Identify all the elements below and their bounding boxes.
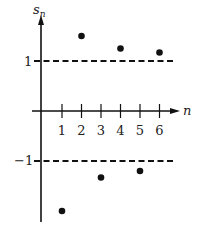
x-tick-label: 3 <box>97 123 105 138</box>
x-ticks: 123456 <box>58 104 164 138</box>
data-point <box>59 208 66 215</box>
data-point <box>137 168 144 175</box>
x-tick-label: 1 <box>58 123 66 138</box>
y-axis-label: sn <box>33 2 46 19</box>
x-axis-arrow-icon <box>170 108 180 114</box>
x-axis-label: n <box>183 103 191 118</box>
y-tick-label-1: 1 <box>24 54 32 69</box>
data-points <box>59 33 163 215</box>
x-tick-label: 2 <box>77 123 85 138</box>
y-tick-label-neg1: −1 <box>14 153 33 168</box>
data-point <box>78 33 85 40</box>
x-tick-label: 6 <box>155 123 163 138</box>
x-tick-label: 5 <box>136 123 144 138</box>
data-point <box>117 45 124 52</box>
data-point <box>156 49 163 56</box>
sequence-scatter-chart: 123456 sn n 1 −1 <box>0 0 199 229</box>
data-point <box>98 174 105 181</box>
axes <box>32 15 180 222</box>
x-tick-label: 4 <box>116 123 124 138</box>
